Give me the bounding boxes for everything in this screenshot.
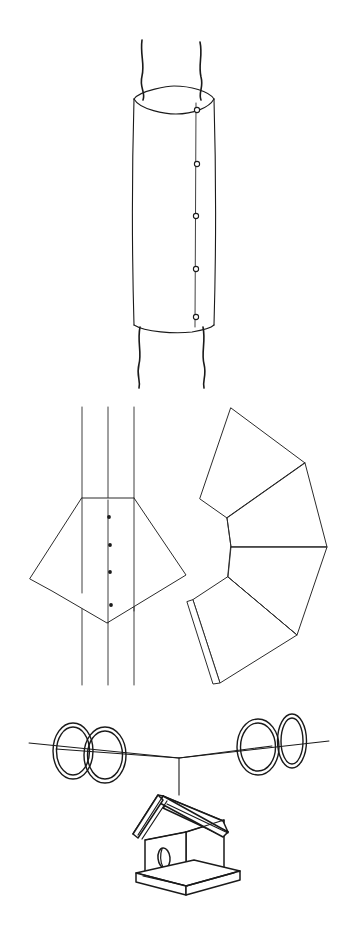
sleeve-body xyxy=(133,99,216,325)
baffle-ring-4 xyxy=(278,714,307,768)
figure-unrolled-cone-fan xyxy=(180,395,350,695)
baffle-ring-2 xyxy=(84,727,126,783)
birdhouse-roof-left-inner xyxy=(133,795,163,838)
tree-trunk-upper xyxy=(141,40,202,100)
tree-trunk-lower xyxy=(138,327,205,388)
sleeve-top-rim xyxy=(134,86,214,114)
figure-suspended-birdhouse xyxy=(0,690,350,933)
birdhouse xyxy=(133,795,240,895)
figure-cylindrical-sleeve xyxy=(0,0,350,400)
baffle-rings xyxy=(53,714,307,783)
figure-flat-pattern-overlap xyxy=(0,395,200,695)
sleeve-bottom-rim xyxy=(134,325,214,333)
fastener-holes xyxy=(193,107,199,319)
drawing-sheet xyxy=(0,0,350,933)
